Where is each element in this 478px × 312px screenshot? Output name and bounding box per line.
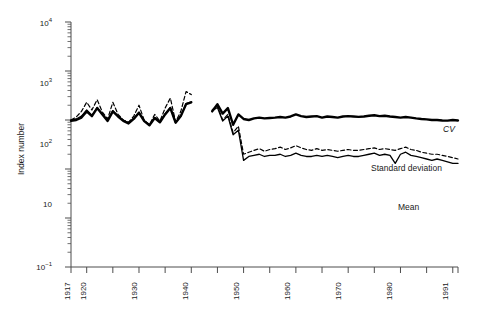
chart-figure: Index number 104 103 102 10 10−1 1917 19… [0,0,478,312]
plot-area [0,0,478,312]
